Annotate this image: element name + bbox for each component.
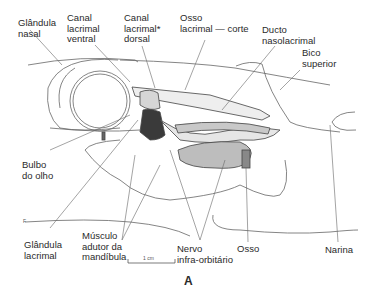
corner-mark: F	[23, 218, 26, 224]
label-canal-lacrimal-ventral: Canal lacrimal ventral	[67, 13, 100, 45]
label-bulbo-do-olho: Bulbo do olho	[22, 160, 53, 181]
label-ducto-nasolacrimal: Ducto nasolacrimal	[262, 25, 315, 46]
figure-letter: A	[184, 274, 193, 288]
scale-bar-label: 1 cm	[143, 255, 154, 261]
label-osso: Osso	[237, 244, 259, 255]
label-narina: Narina	[325, 245, 353, 256]
label-bico-superior: Bico superior	[302, 48, 336, 69]
label-osso-lacrimal-corte: Osso lacrimal — corte	[180, 13, 249, 34]
label-nervo-infra-orbitario: Nervo infra-orbitário	[177, 244, 233, 265]
label-canal-lacrimal-dorsal: Canal lacrimal* dorsal	[124, 13, 160, 45]
label-musculo-adutor: Músculo adutor da mandíbula	[82, 231, 126, 263]
label-glandula-lacrimal: Glândula lacrimal	[24, 240, 62, 261]
label-glandula-nasal: Glândula nasal	[18, 18, 56, 39]
